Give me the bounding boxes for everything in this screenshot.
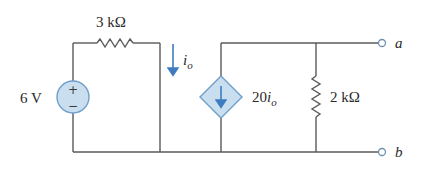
plus-sign: + <box>68 83 78 97</box>
resistor-3k-label: 3 kΩ <box>96 14 126 30</box>
dependent-current-source-icon <box>200 76 242 118</box>
circuit-diagram: 3 kΩ 2 kΩ + − 6 V io 20io a b <box>0 0 436 171</box>
terminal-a <box>379 40 386 47</box>
terminal-b <box>379 149 386 156</box>
resistor-2k-icon <box>312 76 320 117</box>
voltage-source-icon: + − <box>57 81 89 113</box>
minus-sign: − <box>68 99 78 113</box>
terminal-a-label: a <box>395 35 403 51</box>
dependent-source-label: 20io <box>252 89 277 108</box>
current-label: io <box>183 52 193 71</box>
resistor-2k-label: 2 kΩ <box>330 89 360 105</box>
voltage-source-label: 6 V <box>20 90 42 106</box>
resistor-3k-icon <box>97 39 133 47</box>
terminal-b-label: b <box>395 144 403 160</box>
